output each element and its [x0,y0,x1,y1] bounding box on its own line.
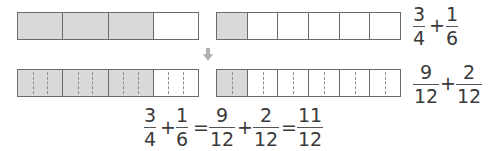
plus-sign: + [160,117,176,138]
fraction-9-12: 9 12 [413,62,439,107]
eq-fraction-3-4: 34 [144,105,156,150]
bar-cell [309,70,340,96]
bar-cell [248,13,279,39]
eq-fraction-1-6: 3 16 [176,105,188,150]
plus-sign: + [237,117,253,138]
bar-cell [278,13,309,39]
bar-quarters [17,12,199,40]
fraction-3-4: 3 4 [413,4,425,49]
equals-sign: = [193,117,209,138]
equals-sign: = [281,117,297,138]
bar-cell [309,13,340,39]
fraction-1-6: 1 6 [446,4,458,49]
bar-cell-shaded [217,70,248,96]
bar-twelfths-b [216,69,401,97]
bar-cell [154,13,198,39]
bar-cell [154,70,198,96]
bar-cell-shaded [217,13,248,39]
bar-cell [278,70,309,96]
bar-cell-shaded [109,13,154,39]
plus-sign: + [429,15,445,36]
bar-sixths [216,12,401,40]
bar-cell [340,13,371,39]
fraction-2-12: 2 12 [456,62,482,107]
bar-cell-shaded [63,70,108,96]
bar-cell [248,70,279,96]
bar-cell-shaded [63,13,108,39]
plus-sign: + [440,73,456,94]
eq-fraction-2-12: 212 [253,105,279,150]
bar-twelfths-a [17,69,199,97]
bar-cell [370,70,400,96]
bar-cell-shaded [18,70,63,96]
eq-fraction-11-12: 1112 [297,105,323,150]
bar-cell-shaded [109,70,154,96]
eq-fraction-9-12: 912 [209,105,235,150]
bar-cell-shaded [18,13,63,39]
bar-cell [370,13,400,39]
bar-cell [340,70,371,96]
down-arrow-icon [203,48,213,61]
